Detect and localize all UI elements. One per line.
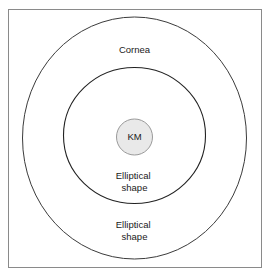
outer-elliptical-shape-label-line-1: Elliptical — [116, 219, 151, 230]
eye-cornea-diagram: Cornea KM Elliptical shape Elliptical sh… — [0, 0, 270, 277]
diagram-canvas: Cornea KM Elliptical shape Elliptical sh… — [0, 0, 270, 277]
km-label: KM — [127, 131, 141, 142]
inner-elliptical-shape-label-line-2: shape — [122, 182, 148, 193]
inner-elliptical-shape-label-line-1: Elliptical — [116, 170, 151, 181]
cornea-label: Cornea — [119, 44, 151, 55]
outer-elliptical-shape-label-line-2: shape — [122, 231, 148, 242]
